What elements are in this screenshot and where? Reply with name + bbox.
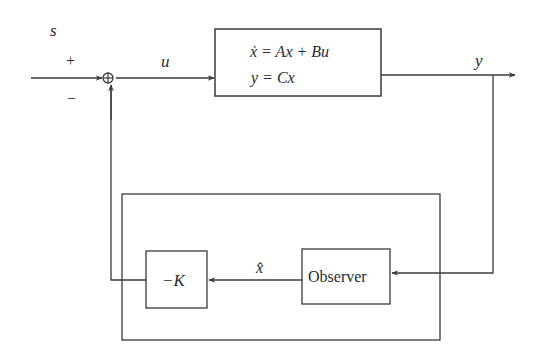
plant-state-equation: ẋ = Ax + Bu <box>249 43 329 60</box>
output-feedback-line <box>392 75 493 273</box>
output-label: y <box>473 51 483 70</box>
observer-label: Observer <box>308 268 367 285</box>
plant-output-equation: y = Cx <box>249 69 295 87</box>
control-label: u <box>161 52 170 71</box>
feedback-line <box>111 85 146 280</box>
diagram-svg: s + − u y x̂ ẋ = Ax + Bu y = Cx −K Obser… <box>0 0 539 356</box>
block-diagram: s + − u y x̂ ẋ = Ax + Bu y = Cx −K Obser… <box>0 0 539 356</box>
reference-label: s <box>50 21 57 40</box>
estimate-label: x̂ <box>255 259 263 276</box>
minus-sign: − <box>67 90 76 107</box>
plus-sign: + <box>66 52 75 69</box>
gain-label: −K <box>162 271 186 290</box>
plant-block <box>215 29 381 96</box>
summing-junction <box>103 73 113 83</box>
controller-enclosure <box>122 194 440 340</box>
